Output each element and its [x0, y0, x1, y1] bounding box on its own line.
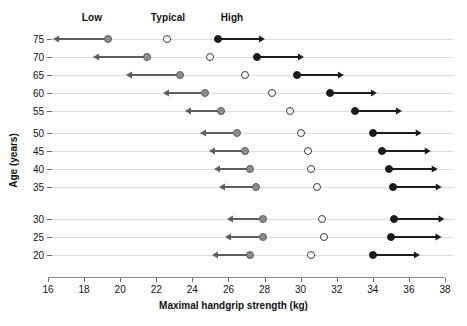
x-axis-tick-label: 32	[331, 284, 342, 295]
data-point-high	[293, 71, 301, 79]
data-point-low	[217, 107, 225, 115]
data-point-typical	[286, 107, 294, 115]
row-gridline	[52, 93, 453, 94]
y-axis-tick-mark	[47, 219, 52, 220]
data-point-typical	[206, 53, 214, 61]
x-axis-tick-label: 34	[367, 284, 378, 295]
data-point-low	[246, 165, 254, 173]
x-axis-tick-mark	[192, 278, 193, 282]
row-gridline	[52, 75, 453, 76]
data-point-typical	[163, 35, 171, 43]
data-point-typical	[268, 89, 276, 97]
data-point-low	[176, 71, 184, 79]
x-axis-tick-mark	[409, 278, 410, 282]
x-axis-tick-mark	[301, 278, 302, 282]
y-axis-tick-mark	[47, 169, 52, 170]
data-point-high	[387, 233, 395, 241]
data-point-high	[214, 35, 222, 43]
x-axis-tick-mark	[84, 278, 85, 282]
data-point-typical	[313, 183, 321, 191]
y-axis-tick-label: 60	[20, 88, 44, 99]
y-axis-tick-mark	[47, 255, 52, 256]
data-point-low	[259, 233, 267, 241]
data-point-typical	[307, 251, 315, 259]
y-axis-tick-label: 35	[20, 182, 44, 193]
data-point-low	[252, 183, 260, 191]
data-point-high	[326, 89, 334, 97]
x-axis-tick-label: 38	[439, 284, 450, 295]
y-axis-tick-label: 25	[20, 232, 44, 243]
x-axis-title: Maximal handgrip strength (kg)	[0, 300, 467, 311]
x-axis-tick-label: 30	[295, 284, 306, 295]
y-axis-tick-mark	[47, 237, 52, 238]
data-point-low	[201, 89, 209, 97]
y-axis-tick-mark	[47, 57, 52, 58]
data-point-high	[253, 53, 261, 61]
x-axis-tick-mark	[337, 278, 338, 282]
legend-label-typical: Typical	[151, 12, 185, 23]
y-axis-tick-label: 55	[20, 106, 44, 117]
data-point-high	[369, 251, 377, 259]
x-axis-tick-label: 28	[259, 284, 270, 295]
x-axis-tick-mark	[373, 278, 374, 282]
y-axis-tick-mark	[47, 111, 52, 112]
data-point-low	[233, 129, 241, 137]
x-axis-tick-label: 24	[187, 284, 198, 295]
handgrip-strength-chart: Low Typical High Age (years) Maximal han…	[0, 0, 467, 326]
y-axis-title: Age (years)	[8, 126, 19, 196]
y-axis-tick-label: 75	[20, 34, 44, 45]
x-axis-tick-label: 36	[403, 284, 414, 295]
x-axis-tick-mark	[445, 278, 446, 282]
x-axis-tick-label: 18	[79, 284, 90, 295]
data-point-typical	[320, 233, 328, 241]
data-point-low	[246, 251, 254, 259]
x-axis-tick-mark	[48, 278, 49, 282]
x-axis-tick-label: 16	[42, 284, 53, 295]
data-point-typical	[304, 147, 312, 155]
data-point-high	[369, 129, 377, 137]
data-point-low	[143, 53, 151, 61]
data-point-typical	[307, 165, 315, 173]
data-point-high	[378, 147, 386, 155]
y-axis-tick-mark	[47, 151, 52, 152]
x-axis-line	[48, 277, 445, 278]
x-axis-tick-label: 22	[151, 284, 162, 295]
y-axis-tick-mark	[47, 187, 52, 188]
y-axis-tick-label: 70	[20, 52, 44, 63]
y-axis-tick-mark	[47, 93, 52, 94]
data-point-low	[104, 35, 112, 43]
x-axis-tick-label: 26	[223, 284, 234, 295]
legend-label-low: Low	[82, 12, 102, 23]
y-axis-tick-label: 45	[20, 146, 44, 157]
data-point-typical	[297, 129, 305, 137]
data-point-low	[241, 147, 249, 155]
x-axis-tick-mark	[265, 278, 266, 282]
y-axis-tick-label: 30	[20, 214, 44, 225]
y-axis-tick-label: 40	[20, 164, 44, 175]
y-axis-tick-label: 20	[20, 250, 44, 261]
data-point-high	[351, 107, 359, 115]
y-axis-tick-label: 50	[20, 128, 44, 139]
data-point-high	[390, 215, 398, 223]
data-point-typical	[241, 71, 249, 79]
y-axis-tick-label: 65	[20, 70, 44, 81]
x-axis-tick-label: 20	[115, 284, 126, 295]
data-point-high	[385, 165, 393, 173]
data-point-high	[389, 183, 397, 191]
x-axis-tick-mark	[120, 278, 121, 282]
data-point-low	[259, 215, 267, 223]
data-point-typical	[318, 215, 326, 223]
x-axis-tick-mark	[156, 278, 157, 282]
y-axis-tick-mark	[47, 75, 52, 76]
legend-label-high: High	[221, 12, 244, 23]
y-axis-tick-mark	[47, 133, 52, 134]
x-axis-tick-mark	[228, 278, 229, 282]
